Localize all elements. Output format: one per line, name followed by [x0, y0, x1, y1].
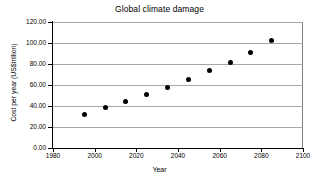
x-axis-tick-label: 2060 — [200, 153, 240, 160]
x-axis-tick-label: 2000 — [75, 153, 115, 160]
gridlines — [53, 22, 303, 148]
data-point — [228, 60, 233, 65]
data-point — [103, 105, 108, 110]
gridline — [53, 22, 303, 23]
chart-container: Global climate damage 0.0020.0040.0060.0… — [0, 0, 319, 183]
x-axis-tick-label: 2020 — [116, 153, 156, 160]
data-point — [186, 77, 191, 82]
y-axis-title: Cost per year (US$trillion) — [10, 18, 17, 148]
x-axis-tick-label: 2100 — [283, 153, 319, 160]
gridline — [53, 106, 303, 107]
data-point — [82, 112, 87, 117]
data-point — [165, 85, 170, 90]
gridline — [53, 64, 303, 65]
x-axis-title: Year — [0, 166, 319, 173]
x-axis-tick-label: 1980 — [33, 153, 73, 160]
x-axis-tick-label: 2040 — [158, 153, 198, 160]
y-axis-line — [52, 21, 53, 149]
chart-title: Global climate damage — [0, 4, 319, 14]
gridline — [53, 43, 303, 44]
gridline — [53, 127, 303, 128]
plot-area — [53, 22, 303, 148]
gridline — [53, 85, 303, 86]
x-axis-tick-label: 2080 — [241, 153, 281, 160]
